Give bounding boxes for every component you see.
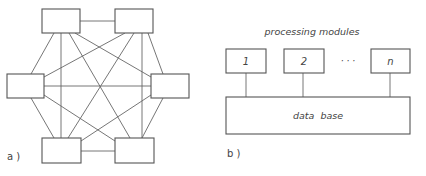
connection-line <box>81 95 151 141</box>
module-label: n <box>387 56 393 67</box>
connection-line <box>44 95 115 141</box>
connection-lines <box>31 21 163 151</box>
module-box-n: n <box>371 49 410 73</box>
node-right <box>151 74 189 98</box>
processing-modules-title: processing modules <box>264 26 360 37</box>
module-box-2: 2 <box>284 49 324 73</box>
connection-line <box>142 98 163 138</box>
connection-line <box>148 33 163 74</box>
module-label: 1 <box>243 56 249 67</box>
ellipsis: · · · <box>341 56 355 66</box>
module-label: 2 <box>301 56 307 67</box>
panel-b-label: b ) <box>227 148 241 159</box>
node-left <box>7 74 44 98</box>
node-bottom-right <box>115 138 154 163</box>
connection-line <box>31 98 54 138</box>
node-top-right <box>115 9 153 33</box>
node-top-left <box>42 9 80 33</box>
connection-line <box>31 33 54 74</box>
diagram-canvas: a ) processing modules 12n · · · data ba… <box>0 0 426 176</box>
node-bottom-left <box>42 138 81 163</box>
database-label: data base <box>293 110 343 121</box>
panel-b-shared-database: processing modules 12n · · · data base b… <box>226 26 410 159</box>
processing-modules: 12n <box>226 49 410 73</box>
module-box-1: 1 <box>226 49 266 73</box>
panel-a-label: a ) <box>7 151 20 162</box>
panel-a-fully-connected-network: a ) <box>7 9 189 163</box>
module-connectors <box>246 73 390 97</box>
